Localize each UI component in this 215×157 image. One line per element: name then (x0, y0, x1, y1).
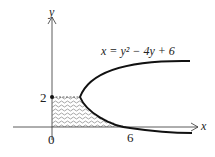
x-axis-label: x (200, 119, 207, 133)
tick-label-y-2: 2 (40, 90, 47, 105)
equation-label: x = y² − 4y + 6 (100, 44, 175, 58)
point-y2 (50, 95, 54, 99)
tick-label-x-6: 6 (127, 130, 134, 145)
y-axis-label: y (48, 5, 55, 19)
parabola-region-diagram: y x 2 0 6 x = y² − 4y + 6 (0, 0, 215, 157)
tick-label-x-0: 0 (48, 132, 55, 147)
